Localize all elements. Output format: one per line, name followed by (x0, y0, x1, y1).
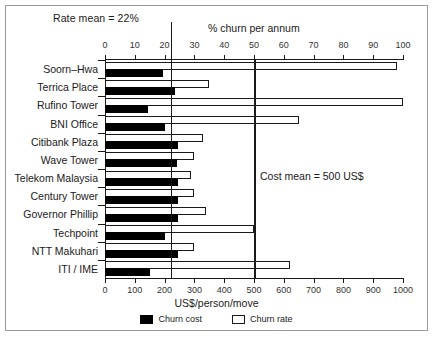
bottom-axis-tick (343, 279, 344, 283)
category-label: Wave Tower (41, 154, 98, 166)
chart-figure: Rate mean = 22% % churn per annum 010203… (0, 0, 433, 343)
bottom-axis-tick (224, 279, 225, 283)
top-axis-tick (284, 55, 285, 59)
top-axis-tick (314, 55, 315, 59)
bottom-axis-tick (194, 279, 195, 283)
category-axis-tick (98, 96, 105, 97)
top-axis-tick (224, 55, 225, 59)
bottom-axis-tick (165, 279, 166, 283)
category-label: Century Tower (30, 190, 98, 202)
category-label: BNI Office (50, 118, 98, 130)
category-axis-tick (98, 242, 105, 243)
rate-mean-line (171, 22, 173, 278)
category-axis-tick (98, 169, 105, 170)
category-axis-tick (98, 78, 105, 79)
category-axis-tick (98, 224, 105, 225)
top-axis-tick (165, 55, 166, 59)
cost-mean-annotation-label: Cost mean = 500 US$ (260, 170, 364, 182)
legend-item-churn-rate: Churn rate (232, 314, 293, 324)
legend-swatch-hollow-icon (232, 315, 245, 324)
category-axis-tick (98, 260, 105, 261)
bottom-axis-tick (135, 279, 136, 283)
bottom-axis-title: US$/person/move (0, 297, 433, 309)
legend-swatch-filled-icon (140, 315, 153, 324)
category-label: Citibank Plaza (31, 136, 98, 148)
top-axis-tick (403, 55, 404, 59)
category-axis-tick (98, 205, 105, 206)
bottom-axis-tick (284, 279, 285, 283)
legend-label-churn-cost: Churn cost (158, 314, 202, 324)
bottom-axis-tick-label: 1000 (386, 285, 420, 295)
top-axis-title: % churn per annum (208, 22, 300, 34)
rate-mean-annotation-label: Rate mean = 22% (53, 12, 139, 24)
bar-churn-cost (105, 214, 178, 222)
category-axis-tick (98, 115, 105, 116)
bar-churn-cost (105, 141, 178, 149)
bar-churn-cost (105, 123, 165, 131)
category-label: Soorn–Hwa (43, 63, 98, 75)
top-axis-tick (194, 55, 195, 59)
legend-item-churn-cost: Churn cost (140, 314, 202, 324)
category-axis-tick (98, 187, 105, 188)
bar-churn-cost (105, 69, 163, 77)
bar-churn-cost (105, 196, 178, 204)
category-label: Techpoint (53, 227, 98, 239)
category-label: Telekom Malaysia (15, 172, 98, 184)
bar-churn-cost (105, 268, 150, 276)
bar-churn-cost (105, 105, 148, 113)
top-axis-tick-label: 100 (386, 40, 420, 50)
cost-mean-line (254, 60, 256, 278)
category-label: Terrica Place (37, 81, 98, 93)
top-axis-tick (105, 55, 106, 59)
category-label: ITI / IME (58, 263, 98, 275)
bar-churn-cost (105, 250, 178, 258)
figure-frame (5, 5, 428, 331)
top-axis-tick (343, 55, 344, 59)
bottom-axis-tick (314, 279, 315, 283)
legend-label-churn-rate: Churn rate (250, 314, 293, 324)
chart-legend: Churn cost Churn rate (0, 314, 433, 324)
category-axis-tick (98, 151, 105, 152)
bottom-axis-tick (105, 279, 106, 283)
category-label: Rufino Tower (37, 99, 98, 111)
bar-churn-cost (105, 178, 178, 186)
bar-churn-cost (105, 232, 165, 240)
category-label: NTT Makuhari (32, 245, 98, 257)
bottom-axis-tick (373, 279, 374, 283)
bar-churn-cost (105, 159, 177, 167)
category-axis-tick (98, 60, 105, 61)
top-axis-tick (373, 55, 374, 59)
bar-churn-cost (105, 87, 175, 95)
top-axis-tick (254, 55, 255, 59)
top-axis-tick (135, 55, 136, 59)
bottom-axis-tick (254, 279, 255, 283)
category-label: Governor Phillip (23, 208, 98, 220)
bottom-axis-tick (403, 279, 404, 283)
category-axis-tick (98, 133, 105, 134)
